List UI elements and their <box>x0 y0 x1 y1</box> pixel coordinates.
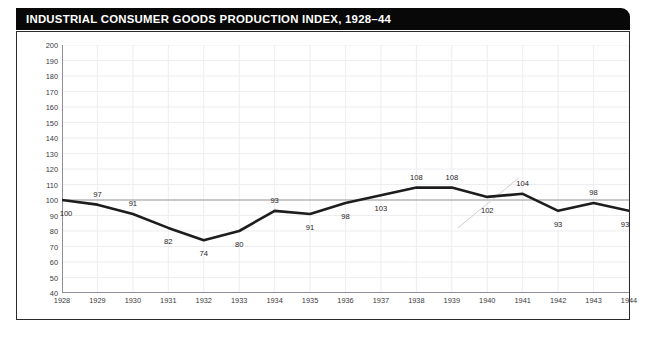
plot-area <box>62 45 629 293</box>
y-axis-tick-label: 160 <box>34 103 58 112</box>
y-axis-tick-label: 190 <box>34 56 58 65</box>
x-axis-tick-label: 1944 <box>621 296 637 305</box>
x-axis-tick-label: 1934 <box>266 296 282 305</box>
x-axis-tick-label: 1932 <box>196 296 212 305</box>
x-axis-tick-label: 1936 <box>337 296 353 305</box>
y-axis-tick-label: 110 <box>34 180 58 189</box>
line-chart-svg <box>62 45 629 293</box>
x-axis-tick-label: 1928 <box>54 296 70 305</box>
scan-artifact-line <box>458 178 519 228</box>
x-axis-tick-label: 1933 <box>231 296 247 305</box>
x-axis-tick-label: 1939 <box>444 296 460 305</box>
y-axis-tick-label: 120 <box>34 165 58 174</box>
x-axis-tick-labels: 1928192919301931193219331934193519361937… <box>62 296 629 310</box>
page-title: INDUSTRIAL CONSUMER GOODS PRODUCTION IND… <box>16 13 391 25</box>
y-axis-tick-label: 80 <box>34 227 58 236</box>
x-axis-tick-label: 1941 <box>514 296 530 305</box>
x-axis-tick-label: 1943 <box>585 296 601 305</box>
x-axis-tick-label: 1929 <box>89 296 105 305</box>
x-axis-tick-label: 1942 <box>550 296 566 305</box>
y-axis-tick-label: 140 <box>34 134 58 143</box>
x-axis-tick-label: 1938 <box>408 296 424 305</box>
y-axis-tick-label: 60 <box>34 258 58 267</box>
y-axis-tick-label: 130 <box>34 149 58 158</box>
y-axis-tick-label: 180 <box>34 72 58 81</box>
x-axis-tick-label: 1940 <box>479 296 495 305</box>
y-axis-tick-label: 170 <box>34 87 58 96</box>
x-axis-tick-label: 1930 <box>125 296 141 305</box>
y-axis-tick-label: 50 <box>34 273 58 282</box>
y-axis-tick-label: 70 <box>34 242 58 251</box>
chart-title-bar: INDUSTRIAL CONSUMER GOODS PRODUCTION IND… <box>16 8 630 30</box>
y-axis-tick-label: 100 <box>34 196 58 205</box>
chart-figure: INDUSTRIAL CONSUMER GOODS PRODUCTION IND… <box>0 0 646 339</box>
y-axis-tick-label: 150 <box>34 118 58 127</box>
x-axis-tick-label: 1931 <box>160 296 176 305</box>
x-axis-tick-label: 1935 <box>302 296 318 305</box>
y-axis-tick-labels: 2001901801701601501401301201101009080706… <box>30 45 58 293</box>
x-axis-tick-label: 1937 <box>373 296 389 305</box>
y-axis-tick-label: 200 <box>34 41 58 50</box>
y-axis-tick-label: 90 <box>34 211 58 220</box>
